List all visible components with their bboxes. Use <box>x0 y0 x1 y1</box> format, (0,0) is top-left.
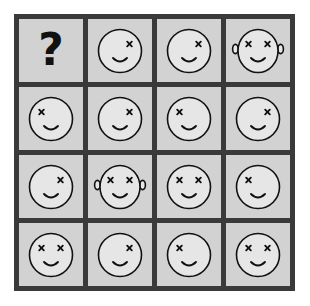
face-right-eye-icon <box>88 88 152 150</box>
face-outline <box>168 97 211 140</box>
grid-cell-r2c2[interactable] <box>88 87 152 150</box>
face-outline <box>238 29 278 72</box>
face-both-eyes-icon <box>226 224 290 286</box>
face-right-eye-icon <box>19 156 83 218</box>
face-left-eye-icon <box>19 88 83 150</box>
grid-cell-r2c1[interactable] <box>19 87 83 150</box>
grid-cell-r1c2[interactable] <box>88 19 152 82</box>
question-mark-icon: ? <box>38 28 64 72</box>
face-outline <box>30 233 73 276</box>
puzzle-grid: ? <box>14 14 295 291</box>
grid-cell-r4c3[interactable] <box>157 223 221 286</box>
face-both-eyes-ears-icon <box>226 20 290 82</box>
grid-cell-r4c4[interactable] <box>226 223 290 286</box>
face-left-eye-icon <box>157 88 221 150</box>
face-outline <box>237 165 280 208</box>
face-outline <box>168 29 211 72</box>
face-outline <box>99 29 142 72</box>
face-outline <box>100 165 140 208</box>
grid-cell-r3c3[interactable] <box>157 155 221 218</box>
face-outline <box>168 233 211 276</box>
face-left-eye-icon <box>226 156 290 218</box>
grid-cell-r1c4[interactable] <box>226 19 290 82</box>
face-both-eyes-ears-icon <box>88 156 152 218</box>
grid-cell-r2c3[interactable] <box>157 87 221 150</box>
grid-cell-r2c4[interactable] <box>226 87 290 150</box>
face-outline <box>237 233 280 276</box>
face-outline <box>168 165 211 208</box>
face-left-eye-icon <box>157 224 221 286</box>
face-outline <box>99 97 142 140</box>
grid-cell-r4c2[interactable] <box>88 223 152 286</box>
face-outline <box>99 233 142 276</box>
face-right-eye-icon <box>88 224 152 286</box>
grid-cell-r4c1[interactable] <box>19 223 83 286</box>
face-both-eyes-icon <box>157 156 221 218</box>
face-right-eye-icon <box>88 20 152 82</box>
grid-cell-r3c2[interactable] <box>88 155 152 218</box>
face-both-eyes-icon <box>19 224 83 286</box>
grid-cell-r3c1[interactable] <box>19 155 83 218</box>
face-outline <box>237 97 280 140</box>
face-outline <box>30 165 73 208</box>
face-outline <box>30 97 73 140</box>
face-right-eye-icon <box>226 88 290 150</box>
grid-cell-r3c4[interactable] <box>226 155 290 218</box>
grid-cell-r1c3[interactable] <box>157 19 221 82</box>
face-right-eye-icon <box>157 20 221 82</box>
grid-cell-r1c1[interactable]: ? <box>19 19 83 82</box>
